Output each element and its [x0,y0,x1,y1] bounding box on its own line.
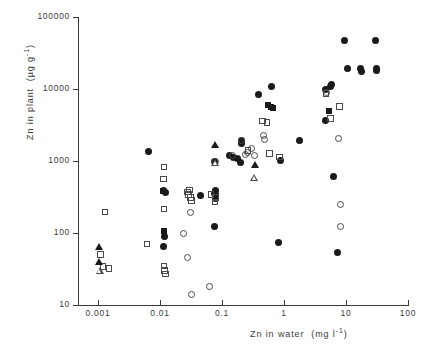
data-point-open-circle [337,223,344,230]
data-point-filled-triangle [211,141,219,148]
data-point-open-square [161,206,168,213]
data-point-open-circle [184,254,191,261]
data-point-open-square [245,147,252,154]
data-point-open-triangle [96,267,104,274]
data-point-open-square [102,209,109,216]
data-point-open-circle [206,283,213,290]
data-point-open-circle [251,152,258,159]
data-point-open-triangle [211,159,219,166]
data-point-filled-triangle [95,243,103,250]
data-point-open-circle [180,230,187,237]
data-point-filled-circle [330,173,337,180]
data-point-open-square [323,90,330,97]
data-point-open-square [264,119,271,126]
data-point-filled-square [160,188,166,194]
data-point-filled-circle [373,67,380,74]
data-point-filled-circle [358,68,365,75]
data-point-filled-circle [344,65,351,72]
data-point-filled-triangle [251,161,259,168]
data-point-open-square [276,154,283,161]
data-point-filled-circle [211,223,218,230]
data-point-filled-circle [372,37,379,44]
data-point-filled-circle [160,243,167,250]
data-point-filled-circle [161,233,168,240]
data-point-filled-circle [255,91,262,98]
data-point-open-circle [188,291,195,298]
data-point-open-square [336,103,343,110]
data-point-open-square [327,115,334,122]
data-point-filled-circle [334,249,341,256]
data-point-filled-triangle [95,258,103,265]
data-point-filled-circle [341,37,348,44]
data-point-open-circle [335,135,342,142]
data-point-filled-circle [145,148,152,155]
data-point-open-square [161,164,168,171]
data-point-open-circle [261,136,268,143]
data-point-open-circle [337,201,344,208]
scatter-plot-figure: 100000 10000 1000 100 10 0.001 0.01 0.1 … [0,0,442,347]
data-point-filled-circle [197,192,204,199]
data-point-filled-square [161,228,167,234]
data-point-filled-square [326,108,332,114]
data-point-open-square [188,197,195,204]
plot-data-area [0,0,442,347]
data-point-filled-circle [268,83,275,90]
data-point-open-circle [187,209,194,216]
data-point-open-square [144,241,151,248]
data-point-open-square [162,271,169,278]
data-point-open-square [212,194,219,201]
data-point-open-triangle [250,174,258,181]
data-point-open-square [186,187,193,194]
data-point-open-square [106,265,113,272]
data-point-filled-square [270,105,276,111]
data-point-filled-circle [275,239,282,246]
data-point-filled-circle [296,137,303,144]
data-point-open-square [160,176,167,183]
data-point-open-square [97,251,104,258]
data-point-open-square [266,150,273,157]
